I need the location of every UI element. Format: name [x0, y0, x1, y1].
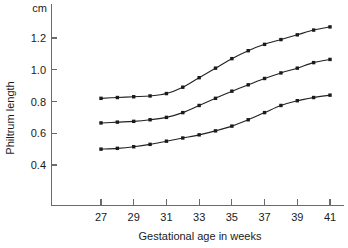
series-data-point	[148, 94, 151, 97]
x-tick-label: 27	[95, 211, 107, 223]
series-data-point	[247, 49, 250, 52]
series-data-point	[197, 133, 200, 136]
series-data-point	[247, 83, 250, 86]
series-data-point	[148, 143, 151, 146]
y-axis-unit-label: cm	[32, 2, 47, 14]
x-tick-label: 41	[324, 211, 336, 223]
data-series	[99, 25, 331, 100]
series-data-point	[197, 76, 200, 79]
series-data-point	[263, 111, 266, 114]
series-data-point	[116, 147, 119, 150]
series-data-point	[263, 43, 266, 46]
series-line	[101, 27, 330, 98]
x-tick-label: 29	[128, 211, 140, 223]
series-data-point	[230, 124, 233, 127]
series-data-point	[296, 33, 299, 36]
x-axis-ticks	[101, 199, 330, 206]
series-data-point	[312, 28, 315, 31]
series-data-point	[312, 96, 315, 99]
series-data-point	[116, 120, 119, 123]
series-data-point	[99, 121, 102, 124]
series-data-point	[132, 95, 135, 98]
y-tick-label: 0.6	[31, 127, 46, 139]
chart-figure: 0.40.60.81.01.2 2729313335373941 cm Phil…	[0, 0, 348, 248]
x-axis-tick-labels: 2729313335373941	[95, 211, 336, 223]
series-data-point	[132, 145, 135, 148]
x-axis: 2729313335373941	[52, 199, 345, 223]
series-data-point	[165, 116, 168, 119]
y-tick-label: 1.2	[31, 32, 46, 44]
series-data-point	[328, 93, 331, 96]
series-data-point	[279, 38, 282, 41]
series-data-point	[263, 77, 266, 80]
series-data-point	[148, 118, 151, 121]
series-data-point	[214, 97, 217, 100]
series-data-point	[165, 139, 168, 142]
x-tick-label: 37	[258, 211, 270, 223]
series-data-point	[230, 57, 233, 60]
y-axis-title: Philtrum length	[4, 81, 16, 154]
series-data-point	[247, 118, 250, 121]
series-data-point	[312, 61, 315, 64]
series-data-point	[214, 66, 217, 69]
x-tick-label: 33	[193, 211, 205, 223]
data-series-layer	[99, 25, 331, 151]
y-tick-label: 0.4	[31, 159, 46, 171]
series-data-point	[181, 111, 184, 114]
series-data-point	[197, 104, 200, 107]
x-tick-label: 31	[160, 211, 172, 223]
series-data-point	[279, 104, 282, 107]
series-data-point	[296, 99, 299, 102]
x-axis-title: Gestational age in weeks	[139, 230, 262, 242]
series-data-point	[132, 120, 135, 123]
series-data-point	[328, 25, 331, 28]
y-tick-label: 1.0	[31, 64, 46, 76]
series-data-point	[214, 129, 217, 132]
series-data-point	[230, 89, 233, 92]
series-data-point	[165, 92, 168, 95]
series-data-point	[181, 136, 184, 139]
x-tick-label: 39	[291, 211, 303, 223]
series-data-point	[296, 66, 299, 69]
y-axis-ticks	[52, 38, 58, 165]
x-tick-label: 35	[226, 211, 238, 223]
series-data-point	[99, 97, 102, 100]
series-data-point	[181, 86, 184, 89]
series-data-point	[99, 147, 102, 150]
y-axis: 0.40.60.81.01.2	[31, 4, 57, 206]
y-axis-tick-labels: 0.40.60.81.01.2	[31, 32, 46, 171]
philtrum-length-line-chart: 0.40.60.81.01.2 2729313335373941 cm Phil…	[0, 0, 348, 248]
series-data-point	[279, 71, 282, 74]
series-data-point	[328, 58, 331, 61]
series-data-point	[116, 96, 119, 99]
y-tick-label: 0.8	[31, 96, 46, 108]
